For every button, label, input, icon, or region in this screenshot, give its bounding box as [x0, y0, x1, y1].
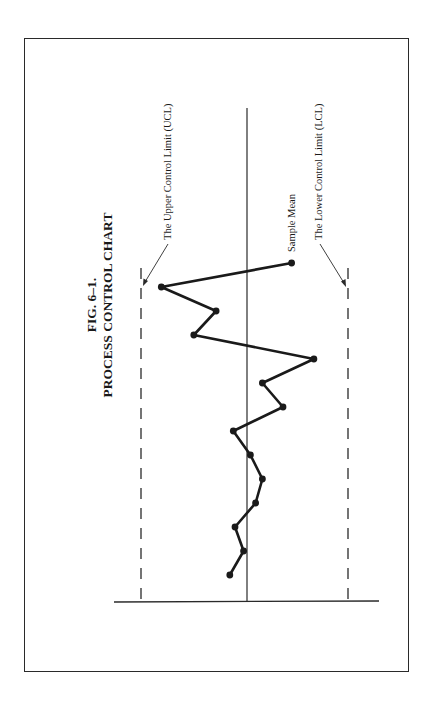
data-point-13: [158, 284, 165, 291]
lcl-label: The Lower Control Limit (LCL): [313, 103, 325, 240]
ucl-leader-arrow: [143, 244, 168, 286]
figure-title-text: PROCESS CONTROL CHART: [100, 213, 115, 398]
data-point-4: [252, 500, 259, 507]
data-point-2: [240, 548, 247, 555]
data-point-10: [311, 356, 318, 363]
data-point-11: [190, 332, 197, 339]
ucl-label: The Upper Control Limit (UCL): [162, 103, 174, 240]
data-point-8: [280, 404, 287, 411]
figure-number: FIG. 6–1.: [84, 278, 99, 332]
figure-page: FIG. 6–1. PROCESS CONTROL CHART The Uppe…: [0, 0, 435, 708]
data-point-14: [288, 260, 295, 267]
data-point-7: [230, 428, 237, 435]
process-control-chart: FIG. 6–1. PROCESS CONTROL CHART The Uppe…: [0, 0, 435, 708]
data-point-9: [259, 380, 266, 387]
data-point-12: [213, 308, 220, 315]
lcl-leader-arrow: [320, 244, 346, 287]
figure-title: FIG. 6–1. PROCESS CONTROL CHART: [84, 213, 115, 398]
data-point-3: [232, 524, 239, 531]
data-point-1: [226, 572, 233, 579]
data-point-6: [247, 452, 254, 459]
mean-label: Sample Mean: [286, 193, 297, 252]
data-point-5: [259, 476, 266, 483]
